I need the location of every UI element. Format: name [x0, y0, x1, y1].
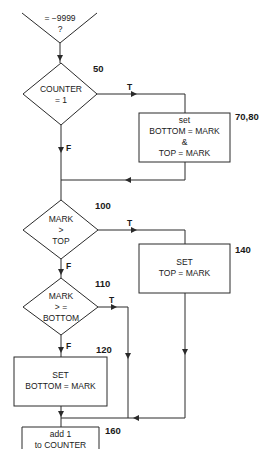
start-decision-line2: ? [40, 24, 80, 35]
process-70-80-line3: & [139, 137, 230, 148]
process-70-80-number: 70,80 [235, 111, 259, 122]
process-160: add 1 to COUNTER [22, 429, 99, 451]
decision-50-line2: = 1 [31, 95, 91, 106]
process-160-line2: to COUNTER [22, 440, 99, 451]
decision-100-true-label: T [127, 218, 132, 228]
process-120-line1: SET [14, 370, 107, 381]
process-70-80: set BOTTOM = MARK & TOP = MARK [139, 115, 230, 159]
process-160-number: 160 [105, 425, 121, 436]
decision-100: MARK > TOP [31, 214, 91, 247]
decision-100-line2: > [31, 225, 91, 236]
decision-50-line1: COUNTER [31, 84, 91, 95]
decision-110-line2: > = [31, 302, 91, 313]
decision-110-line1: MARK [31, 291, 91, 302]
decision-110-number: 110 [95, 278, 110, 289]
process-70-80-line1: set [139, 115, 230, 126]
decision-50: COUNTER = 1 [31, 84, 91, 106]
decision-110-line3: BOTTOM [31, 313, 91, 324]
process-70-80-line4: TOP = MARK [139, 148, 230, 159]
decision-100-line1: MARK [31, 214, 91, 225]
decision-100-line3: TOP [31, 236, 91, 247]
process-70-80-line2: BOTTOM = MARK [139, 126, 230, 137]
decision-50-true-label: T [127, 82, 132, 92]
decision-110: MARK > = BOTTOM [31, 291, 91, 324]
decision-110-false-label: F [66, 341, 71, 351]
process-120-number: 120 [96, 344, 112, 355]
process-140-line1: SET [139, 257, 230, 268]
decision-100-number: 100 [95, 200, 111, 211]
process-140: SET TOP = MARK [139, 257, 230, 279]
process-120-line2: BOTTOM = MARK [14, 381, 107, 392]
decision-100-false-label: F [66, 261, 71, 271]
process-160-line1: add 1 [22, 429, 99, 440]
process-140-number: 140 [235, 244, 251, 255]
process-140-line2: TOP = MARK [139, 268, 230, 279]
start-decision: = −9999 ? [40, 13, 80, 35]
start-decision-line1: = −9999 [40, 13, 80, 24]
process-120: SET BOTTOM = MARK [14, 370, 107, 392]
decision-110-true-label: T [109, 295, 114, 305]
decision-50-number: 50 [93, 63, 104, 74]
decision-50-false-label: F [66, 143, 71, 153]
